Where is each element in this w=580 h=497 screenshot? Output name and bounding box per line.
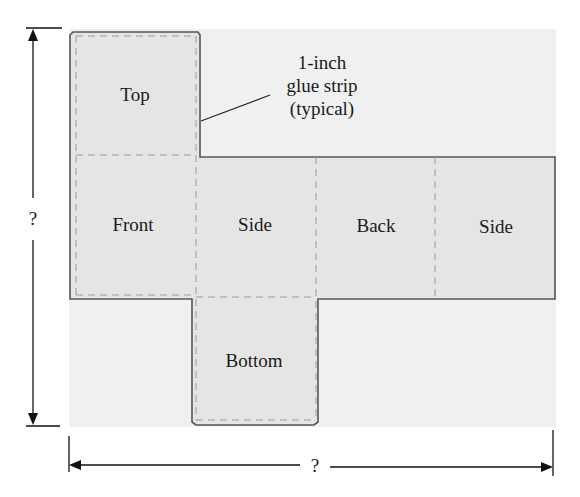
panel-label-front: Front xyxy=(112,214,153,236)
callout-line-1: 1-inch xyxy=(286,51,357,74)
panel-label-back: Back xyxy=(356,215,395,237)
callout-line-3: (typical) xyxy=(286,97,357,120)
glue-strip-callout: 1-inch glue strip (typical) xyxy=(286,51,357,120)
panel-label-side-left: Side xyxy=(238,214,272,236)
callout-line-2: glue strip xyxy=(286,74,357,97)
panel-label-top: Top xyxy=(120,84,149,106)
height-unknown-label: ? xyxy=(29,208,37,230)
width-unknown-label: ? xyxy=(305,455,325,477)
box-net-diagram: Top Front Side Back Side Bottom 1-inch g… xyxy=(0,0,580,497)
panel-label-bottom: Bottom xyxy=(225,350,282,372)
panel-label-side-right: Side xyxy=(479,216,513,238)
